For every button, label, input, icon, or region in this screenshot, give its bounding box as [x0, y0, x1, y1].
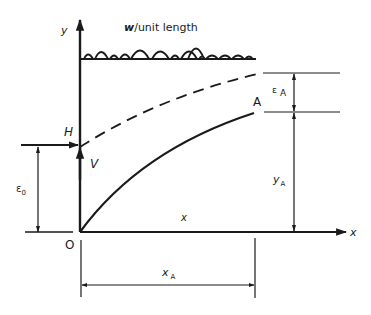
- curve-x-label: x: [180, 212, 187, 223]
- eps-0-label: ε0: [16, 183, 26, 197]
- v-force-label: V: [90, 157, 99, 171]
- point-a-label: A: [253, 95, 262, 109]
- solid-curve: [80, 113, 254, 232]
- x-a-label: xA: [161, 266, 176, 281]
- dashed-curve: [80, 73, 262, 147]
- y-axis-label: y: [60, 24, 68, 37]
- x-axis-label: x: [349, 226, 357, 239]
- h-force-label: H: [64, 125, 73, 139]
- eps-a-label: εA: [272, 85, 287, 98]
- origin-label: O: [65, 238, 74, 252]
- distributed-load: [80, 49, 256, 60]
- y-a-label: yA: [272, 173, 286, 188]
- load-label: w/unit length: [124, 21, 198, 34]
- eps-0-dimension: [25, 147, 73, 232]
- structural-diagram: y x w/unit length A x H V ε0 O εA: [0, 0, 371, 315]
